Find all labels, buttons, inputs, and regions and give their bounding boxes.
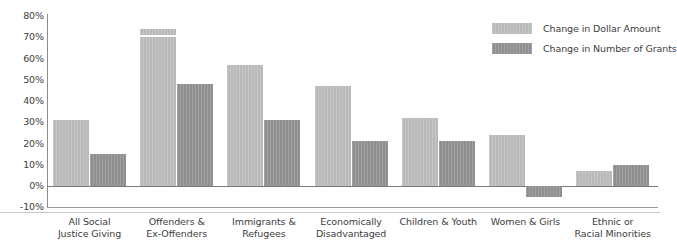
y-tick-30: 30% [2,117,44,127]
category-label: Ethnic orRacial Minorities [553,216,673,239]
legend-swatch-number-of-grants [492,43,532,54]
y-tick-60: 60% [2,54,44,64]
bar-dollar-amount[interactable] [576,171,612,186]
y-tick-20: 20% [2,139,44,149]
bar-group [402,0,475,212]
bar-dollar-amount[interactable] [53,120,89,186]
bar-group [140,0,213,212]
bar-group [53,0,126,212]
category-separator-line [0,212,660,213]
legend-label-number-of-grants: Change in Number of Grants [543,43,677,54]
y-tick-80: 80% [2,11,44,21]
bar-number-of-grants[interactable] [352,141,388,186]
y-tick-50: 50% [2,75,44,85]
bar-dollar-amount[interactable] [227,65,263,186]
y-axis-tick-labels: 80%70%60%50%40%30%20%10%0%-10% [0,0,44,240]
legend-label-dollar-amount: Change in Dollar Amount [543,23,660,34]
legend-swatch-dollar-amount [492,23,532,34]
y-tick-neg10: -10% [2,202,44,212]
y-tick-0: 0% [2,181,44,191]
bar-number-of-grants[interactable] [177,84,213,186]
bar-number-of-grants[interactable] [90,154,126,186]
bar-dollar-amount[interactable] [315,86,351,186]
legend-item-number-of-grants[interactable]: Change in Number of Grants [492,40,677,56]
bar-group [315,0,388,212]
bar-dollar-amount[interactable] [402,118,438,186]
y-tick-40: 40% [2,96,44,106]
bar-top-split-line [140,35,176,37]
bar-number-of-grants[interactable] [613,165,649,186]
bar-group [227,0,300,212]
y-tick-70: 70% [2,32,44,42]
category-label-line: Disadvantaged [291,228,411,240]
bar-number-of-grants[interactable] [264,120,300,186]
bar-dollar-amount[interactable] [140,29,176,186]
bar-dollar-amount[interactable] [489,135,525,186]
chart-legend: Change in Dollar Amount Change in Number… [492,20,677,60]
category-label-line: Ethnic or [553,216,673,228]
legend-item-dollar-amount[interactable]: Change in Dollar Amount [492,20,677,36]
bar-number-of-grants[interactable] [439,141,475,186]
bar-number-of-grants[interactable] [526,186,562,197]
category-label-line: Racial Minorities [553,228,673,240]
y-tick-10: 10% [2,160,44,170]
